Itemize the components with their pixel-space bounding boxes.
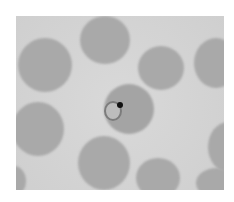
red-blood-cell <box>136 158 180 190</box>
red-blood-cell <box>16 166 26 190</box>
micrograph-frame <box>16 16 224 190</box>
red-blood-cell <box>196 168 224 190</box>
red-blood-cell <box>138 46 184 90</box>
red-blood-cell <box>80 16 130 64</box>
red-blood-cell <box>78 136 130 190</box>
red-blood-cell <box>16 102 64 156</box>
red-blood-cell <box>208 122 224 172</box>
chromatin-dot <box>117 102 123 108</box>
red-blood-cell <box>18 38 72 92</box>
red-blood-cell <box>194 38 224 88</box>
